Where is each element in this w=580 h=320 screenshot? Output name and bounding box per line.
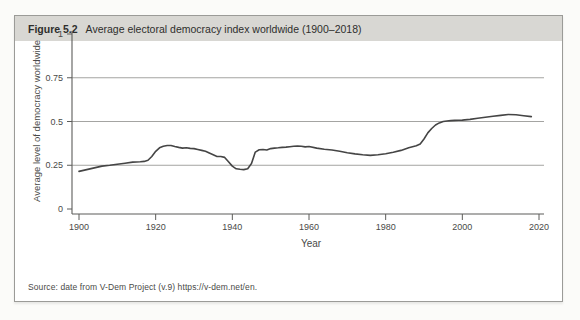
- axes: [72, 31, 544, 214]
- democracy-index-series-line: [79, 115, 531, 172]
- y-tick-label-0.75: 0.75: [45, 73, 63, 83]
- y-tick-label-0.25: 0.25: [45, 160, 63, 170]
- figure-box: Figure 5.2 Average electoral democracy i…: [14, 15, 563, 302]
- x-tick-label-1980: 1980: [376, 222, 396, 232]
- y-tick-label-0: 0: [58, 204, 63, 214]
- x-axis-title: Year: [301, 238, 322, 249]
- x-tick-label-1900: 1900: [69, 222, 89, 232]
- x-tick-label-2020: 2020: [529, 222, 549, 232]
- gridlines: [72, 78, 544, 166]
- x-tick-label-2000: 2000: [452, 222, 472, 232]
- source-note: Source: date from V-Dem Project (v.9) ht…: [28, 282, 257, 292]
- axis-ticks: [67, 34, 539, 220]
- tick-labels: 00.250.50.751190019201940196019802000202…: [45, 29, 549, 232]
- x-tick-label-1960: 1960: [299, 222, 319, 232]
- democracy-index-line-chart: 00.250.50.751190019201940196019802000202…: [15, 16, 562, 276]
- y-axis-title: Average level of democracy worldwide: [31, 40, 42, 202]
- x-tick-label-1920: 1920: [146, 222, 166, 232]
- y-tick-label-0.5: 0.5: [50, 117, 63, 127]
- x-tick-label-1940: 1940: [222, 222, 242, 232]
- y-tick-label-1: 1: [58, 29, 63, 39]
